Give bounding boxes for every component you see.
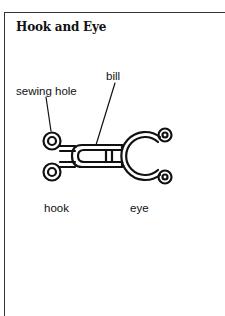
hook-part-label: hook (44, 202, 69, 214)
eye-part-label: eye (130, 202, 149, 214)
sewing-hole-callout-label: sewing hole (16, 85, 77, 97)
hook-and-eye-illustration (0, 0, 225, 316)
bill-callout-label: bill (106, 70, 120, 82)
bill-leader-line (96, 83, 115, 145)
sewing-hole-leader-line (46, 97, 51, 131)
hook-icon (44, 133, 123, 181)
eye-icon (121, 129, 171, 184)
